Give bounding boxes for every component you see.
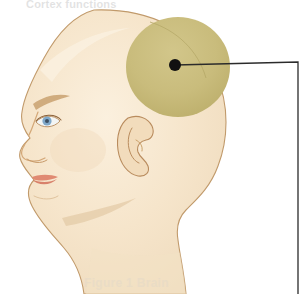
anatomical-figure: Cortex functions Figure 1 Brain [0,0,306,294]
callout-marker-dot[interactable] [169,59,181,71]
head-profile-illustration [0,0,306,294]
cheek-shading [50,128,106,172]
eye-pupil [45,119,49,123]
